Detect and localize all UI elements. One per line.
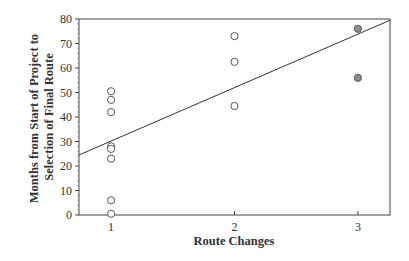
open-data-point — [107, 96, 114, 103]
open-data-point — [231, 33, 238, 40]
y-tick-label: 70 — [60, 37, 72, 51]
open-data-point — [107, 88, 114, 95]
x-tick-label: 2 — [232, 220, 238, 234]
y-tick-label: 50 — [60, 86, 72, 100]
y-tick-label: 40 — [60, 110, 72, 124]
y-tick-label: 60 — [60, 61, 72, 75]
x-tick-label: 3 — [355, 220, 361, 234]
scatter-chart: 01020304050607080 123 Route Changes Mont… — [0, 0, 409, 261]
open-data-point — [231, 58, 238, 65]
open-data-point — [107, 109, 114, 116]
open-data-point — [107, 155, 114, 162]
filled-data-point — [354, 25, 361, 32]
open-data-point — [107, 145, 114, 152]
y-tick-label: 30 — [60, 135, 72, 149]
y-tick-label: 10 — [60, 184, 72, 198]
open-data-point — [107, 197, 114, 204]
y-axis-title-line1: Months from Start of Project to — [27, 34, 41, 203]
x-tick-label: 1 — [108, 220, 114, 234]
y-axis-title: Months from Start of Project to Selectio… — [27, 31, 56, 203]
x-axis: 123 — [108, 211, 361, 234]
x-axis-title: Route Changes — [194, 234, 275, 248]
trend-line — [79, 20, 390, 155]
y-axis-title-line2: Selection of Final Route — [42, 53, 56, 181]
data-points — [107, 25, 361, 217]
open-data-point — [231, 102, 238, 109]
y-tick-label: 20 — [60, 159, 72, 173]
plot-frame — [79, 19, 390, 215]
filled-data-point — [354, 74, 361, 81]
y-tick-label: 80 — [60, 12, 72, 26]
y-tick-label: 0 — [66, 208, 72, 222]
y-axis: 01020304050607080 — [60, 12, 79, 222]
open-data-point — [107, 210, 114, 217]
